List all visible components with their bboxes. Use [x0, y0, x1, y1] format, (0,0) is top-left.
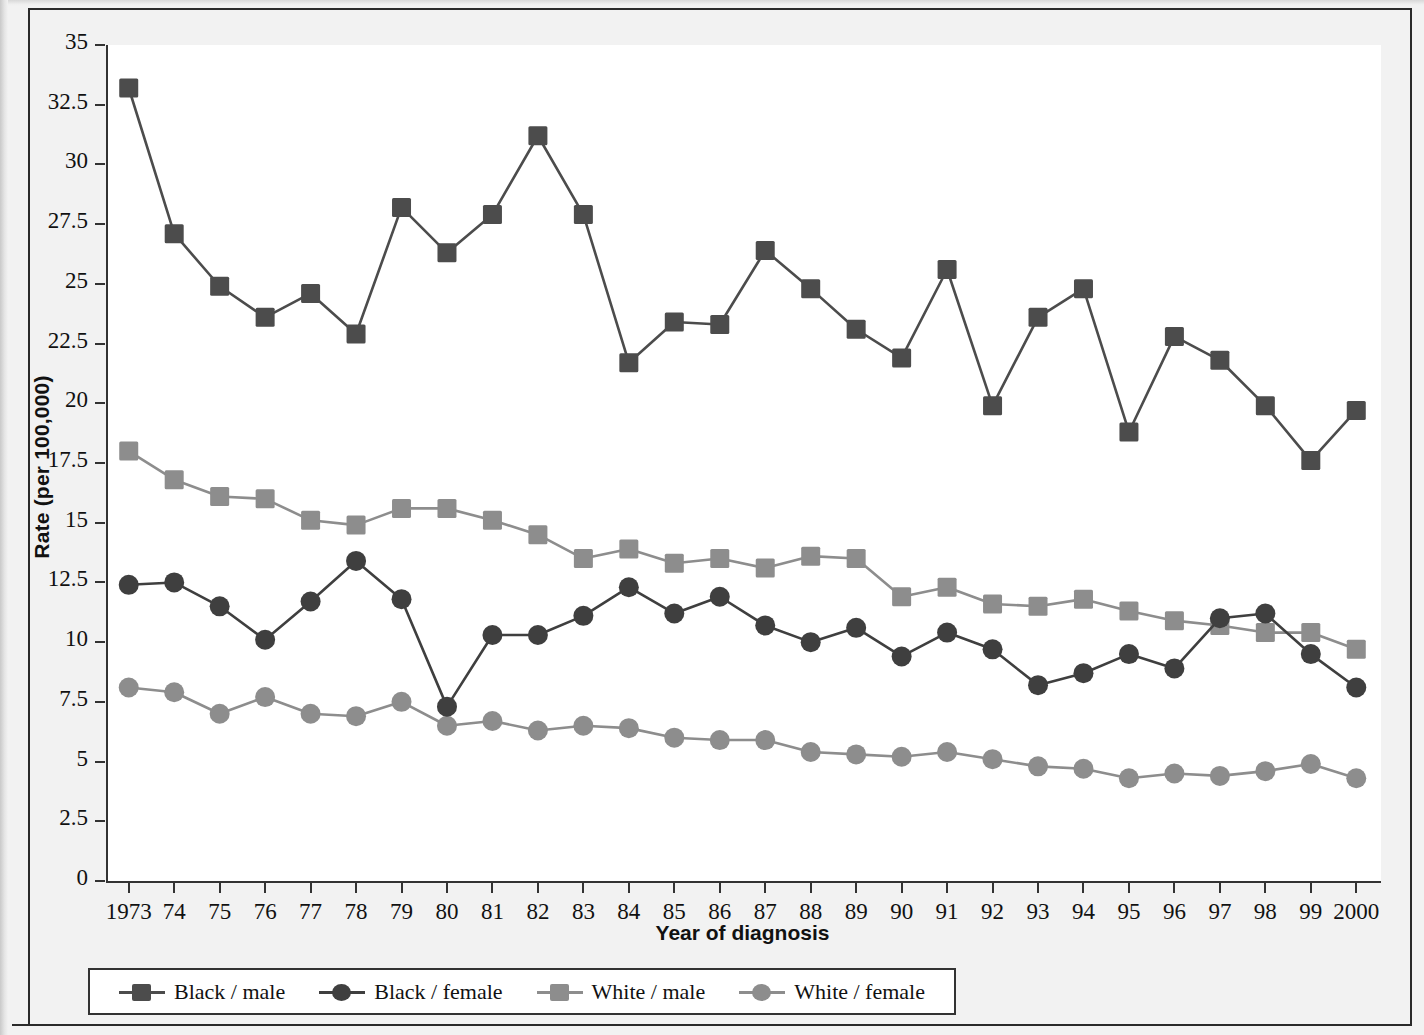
data-point [392, 499, 411, 518]
data-point [1347, 640, 1366, 659]
data-point [756, 559, 775, 578]
data-point [528, 625, 548, 645]
legend-swatch [537, 982, 583, 1002]
x-axis-tick-mark [673, 883, 675, 893]
data-point [574, 205, 593, 224]
data-point [256, 489, 275, 508]
data-point [1119, 768, 1139, 788]
y-axis-tick-label: 20 [18, 387, 88, 413]
y-axis-tick-label: 5 [18, 746, 88, 772]
x-axis-tick-mark [628, 883, 630, 893]
data-point [801, 742, 821, 762]
data-point [119, 575, 139, 595]
legend-label: White / female [794, 979, 925, 1005]
x-axis-tick-mark [901, 883, 903, 893]
data-point [210, 487, 229, 506]
data-point [528, 126, 547, 145]
data-point [1028, 756, 1048, 776]
series-black-male [119, 78, 1366, 470]
data-point [482, 711, 502, 731]
x-axis-tick-mark [992, 883, 994, 893]
data-point [1119, 602, 1138, 621]
data-point [164, 572, 184, 592]
data-point [346, 551, 366, 571]
x-axis-tick-mark [946, 883, 948, 893]
y-axis-tick-label: 25 [18, 268, 88, 294]
data-point [1119, 422, 1138, 441]
data-point [755, 730, 775, 750]
legend-item[interactable]: White / male [537, 979, 706, 1005]
x-axis-tick-mark [1173, 883, 1175, 893]
data-point [528, 525, 547, 544]
data-point [1073, 759, 1093, 779]
x-axis-tick-mark [1082, 883, 1084, 893]
data-point [255, 630, 275, 650]
data-point [119, 678, 139, 698]
series-white-female [119, 678, 1367, 789]
data-point [1165, 327, 1184, 346]
data-point [892, 747, 912, 767]
data-point [1301, 754, 1321, 774]
legend-circle-marker-icon [752, 984, 771, 1001]
legend-swatch [119, 982, 165, 1002]
y-axis-tick-label: 22.5 [18, 328, 88, 354]
data-point [664, 728, 684, 748]
chart: Rate (per 100,000) 3532.53027.52522.5201… [0, 0, 1424, 1035]
figure-page: Rate (per 100,000) 3532.53027.52522.5201… [0, 0, 1424, 1035]
data-point [1346, 768, 1366, 788]
x-axis-tick-mark [1264, 883, 1266, 893]
legend-item[interactable]: Black / female [319, 979, 502, 1005]
data-point [1073, 663, 1093, 683]
data-point [301, 511, 320, 530]
data-point [892, 348, 911, 367]
x-axis-tick-mark [537, 883, 539, 893]
x-axis-title: Year of diagnosis [106, 921, 1379, 945]
x-axis-tick-mark [355, 883, 357, 893]
y-axis-tick-mark [95, 402, 105, 404]
data-point [892, 587, 911, 606]
data-point [938, 578, 957, 597]
x-axis-tick-mark [719, 883, 721, 893]
data-point [937, 623, 957, 643]
y-axis-tick-label: 0 [18, 865, 88, 891]
x-axis-tick-mark [310, 883, 312, 893]
data-point [301, 704, 321, 724]
data-point [847, 549, 866, 568]
y-axis-tick-mark [95, 104, 105, 106]
x-axis-tick-mark [1219, 883, 1221, 893]
y-axis-tick-mark [95, 462, 105, 464]
y-axis-tick-label: 32.5 [18, 89, 88, 115]
data-point [1346, 678, 1366, 698]
legend-square-marker-icon [550, 984, 569, 1001]
data-point [301, 592, 321, 612]
data-point [573, 716, 593, 736]
y-axis-tick-mark [95, 163, 105, 165]
legend-label: Black / male [174, 979, 285, 1005]
data-point [801, 279, 820, 298]
data-point [437, 499, 456, 518]
data-point [801, 547, 820, 566]
legend-item[interactable]: Black / male [119, 979, 285, 1005]
data-point [437, 697, 457, 717]
y-axis-tick-label: 17.5 [18, 447, 88, 473]
data-point [1301, 623, 1320, 642]
data-point [755, 615, 775, 635]
x-axis-tick-mark [1355, 883, 1357, 893]
data-point [1029, 597, 1048, 616]
data-point [756, 241, 775, 260]
series-layer [106, 45, 1379, 881]
y-axis-tick-mark [95, 283, 105, 285]
x-axis-tick-mark [1310, 883, 1312, 893]
data-point [1028, 675, 1048, 695]
legend-swatch [319, 982, 365, 1002]
legend-square-marker-icon [132, 984, 151, 1001]
data-point [119, 442, 138, 461]
data-point [483, 511, 502, 530]
data-point [1210, 351, 1229, 370]
x-axis-tick-mark [764, 883, 766, 893]
data-point [301, 284, 320, 303]
data-point [119, 78, 138, 97]
legend-item[interactable]: White / female [739, 979, 925, 1005]
data-point [573, 606, 593, 626]
data-point [1074, 590, 1093, 609]
